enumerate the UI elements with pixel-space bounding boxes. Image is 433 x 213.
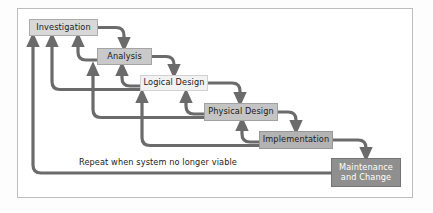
repeat-caption: Repeat when system no longer viable: [79, 157, 237, 167]
node-investigation-label: Investigation: [36, 23, 90, 33]
arrow-analysis-back-to-investigation: [78, 40, 97, 60]
node-physical-design-label: Physical Design: [208, 107, 274, 117]
node-investigation[interactable]: Investigation: [29, 19, 98, 36]
arrow-analysis-to-logical-design: [152, 57, 174, 72]
node-analysis-label: Analysis: [107, 52, 142, 62]
node-maintenance-and-change[interactable]: Maintenance and Change: [331, 158, 401, 187]
node-logical-design-label: Logical Design: [144, 78, 205, 88]
node-maintenance-and-change-label: Maintenance and Change: [339, 163, 393, 182]
node-implementation[interactable]: Implementation: [259, 131, 333, 149]
arrow-physical-design-back-to-logical-design: [186, 96, 204, 114]
node-analysis[interactable]: Analysis: [97, 48, 152, 65]
arrow-investigation-to-analysis: [98, 28, 124, 45]
arrow-implementation-to-maintenance: [333, 140, 366, 154]
node-implementation-label: Implementation: [263, 135, 329, 145]
node-physical-design[interactable]: Physical Design: [204, 103, 278, 121]
arrow-maintenance-back-to-investigation: [33, 40, 331, 173]
arrow-implementation-back-to-physical-design: [242, 124, 259, 142]
node-logical-design[interactable]: Logical Design: [140, 75, 208, 91]
diagram-canvas: Investigation Analysis Logical Design Ph…: [0, 0, 433, 213]
arrow-logical-design-back-to-analysis: [122, 69, 140, 86]
arrow-physical-design-to-implementation: [278, 112, 296, 127]
arrow-logical-design-to-physical-design: [208, 83, 240, 99]
